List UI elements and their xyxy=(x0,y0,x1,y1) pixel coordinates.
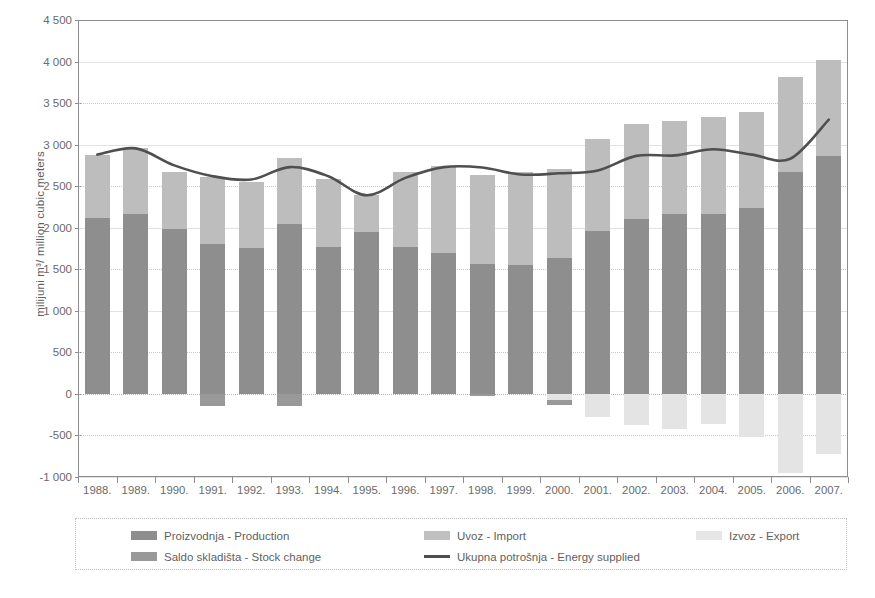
x-axis-tick xyxy=(194,477,195,483)
x-axis-tick-label: 1988. xyxy=(83,484,111,496)
y-axis-tick-labels: -1 000-50005001 0001 5002 0002 5003 0003… xyxy=(12,20,72,477)
x-axis-tick xyxy=(348,477,349,483)
y-axis-tick-label: 1 000 xyxy=(16,305,72,317)
x-axis-tick-label: 1990. xyxy=(160,484,188,496)
y-axis-tick-label: -500 xyxy=(16,429,72,441)
x-axis-tick xyxy=(810,477,811,483)
chart-page: milijuni m³/ million cubic meters -1 000… xyxy=(0,0,875,598)
x-axis-tick xyxy=(617,477,618,483)
x-axis-tick-label: 2003. xyxy=(661,484,689,496)
x-axis-tick xyxy=(463,477,464,483)
plot-area xyxy=(78,20,848,477)
x-axis-tick-label: 1991. xyxy=(199,484,227,496)
legend-item-label: Ukupna potrošnja - Energy supplied xyxy=(457,551,640,563)
y-axis-tick-label: -1 000 xyxy=(16,471,72,483)
x-axis-tick-labels: 1988.1989.1990.1991.1992.1993.1994.1995.… xyxy=(78,484,848,502)
x-axis-tick-label: 1989. xyxy=(122,484,150,496)
x-axis-tick-label: 1999. xyxy=(507,484,535,496)
x-axis-tick-label: 2006. xyxy=(776,484,804,496)
x-axis-tick xyxy=(656,477,657,483)
y-axis-tick-label: 4 000 xyxy=(16,56,72,68)
y-axis-tick-label: 2 000 xyxy=(16,222,72,234)
legend-swatch-stock-change xyxy=(131,552,157,561)
y-axis-tick-label: 0 xyxy=(16,388,72,400)
legend-item-label: Izvoz - Export xyxy=(729,530,799,542)
x-axis-tick-label: 2002. xyxy=(622,484,650,496)
legend-item-label: Proizvodnja - Production xyxy=(164,530,289,542)
legend-item[interactable]: Saldo skladišta - Stock change xyxy=(131,546,321,567)
legend-swatch-production xyxy=(131,531,157,540)
x-axis-tick xyxy=(579,477,580,483)
legend-row-2: Saldo skladišta - Stock changeUkupna pot… xyxy=(76,546,846,567)
scan-artifact-strip xyxy=(0,583,875,593)
x-axis-tick-label: 2000. xyxy=(545,484,573,496)
x-axis-tick-label: 2007. xyxy=(815,484,843,496)
legend-item[interactable]: Ukupna potrošnja - Energy supplied xyxy=(424,546,640,567)
x-axis-tick xyxy=(733,477,734,483)
x-axis-tick xyxy=(232,477,233,483)
x-axis-tick xyxy=(694,477,695,483)
x-axis-tick-label: 1994. xyxy=(314,484,342,496)
legend-swatch-import xyxy=(424,531,450,540)
x-axis-tick xyxy=(386,477,387,483)
x-axis-tick-label: 1995. xyxy=(353,484,381,496)
legend-item[interactable]: Proizvodnja - Production xyxy=(131,525,289,546)
x-axis-tick xyxy=(309,477,310,483)
legend-item[interactable]: Uvoz - Import xyxy=(424,525,526,546)
y-axis-tick-label: 2 500 xyxy=(16,180,72,192)
x-axis-tick xyxy=(425,477,426,483)
legend-item-label: Uvoz - Import xyxy=(457,530,526,542)
y-axis-tick-label: 3 000 xyxy=(16,139,72,151)
x-axis-tick-label: 2001. xyxy=(584,484,612,496)
y-axis-tick-label: 1 500 xyxy=(16,263,72,275)
legend-item-label: Saldo skladišta - Stock change xyxy=(164,551,321,563)
y-axis-tick-label: 3 500 xyxy=(16,97,72,109)
y-axis-tick-label: 4 500 xyxy=(16,14,72,26)
x-axis-tick xyxy=(502,477,503,483)
legend-swatch-export xyxy=(696,531,722,540)
x-axis-tick xyxy=(271,477,272,483)
legend-item[interactable]: Izvoz - Export xyxy=(696,525,799,546)
chart-legend: Proizvodnja - ProductionUvoz - ImportIzv… xyxy=(75,518,847,570)
legend-row-1: Proizvodnja - ProductionUvoz - ImportIzv… xyxy=(76,525,846,546)
x-axis-tick xyxy=(771,477,772,483)
legend-line-energy-supplied xyxy=(424,555,450,558)
x-axis-tick-label: 2004. xyxy=(699,484,727,496)
x-axis-tick-label: 1993. xyxy=(276,484,304,496)
x-axis-tick-label: 1998. xyxy=(468,484,496,496)
x-axis-tick xyxy=(78,477,79,483)
y-axis-tick-label: 500 xyxy=(16,346,72,358)
x-axis-tick xyxy=(540,477,541,483)
x-axis-tick-label: 1996. xyxy=(391,484,419,496)
x-axis-tick xyxy=(848,477,849,483)
x-axis-tick xyxy=(117,477,118,483)
plot-frame xyxy=(78,20,848,477)
x-axis-tick-label: 1992. xyxy=(237,484,265,496)
x-axis-tick xyxy=(155,477,156,483)
x-axis-tick-label: 1997. xyxy=(430,484,458,496)
x-axis-ticks xyxy=(78,477,848,484)
x-axis-tick-label: 2005. xyxy=(738,484,766,496)
